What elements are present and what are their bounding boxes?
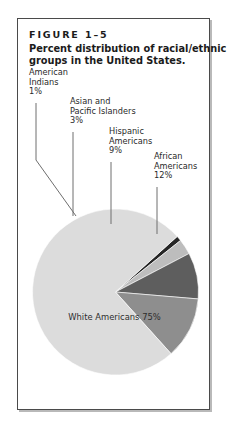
pie-label-white-americans: White Americans 75%: [18, 312, 211, 322]
pie-chart: [18, 19, 211, 411]
pie-slice-group: [33, 209, 199, 375]
leader-line-american-indians: [36, 103, 76, 216]
figure-frame: FIGURE 1–5 Percent distribution of racia…: [17, 18, 210, 410]
